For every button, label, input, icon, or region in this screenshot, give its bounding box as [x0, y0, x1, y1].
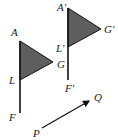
label-L-prime: L' — [55, 42, 65, 54]
label-Q: Q — [94, 91, 102, 103]
label-F: F — [8, 111, 16, 123]
original-flag-triangle — [20, 41, 53, 80]
translation-vector: P Q — [32, 91, 102, 139]
label-A-prime: A' — [56, 1, 67, 13]
label-A: A — [10, 26, 18, 38]
vector-PQ-arrow — [42, 101, 89, 128]
image-flag-triangle — [68, 8, 101, 47]
label-G: G — [57, 58, 65, 70]
translation-diagram: A G L F A' G' L' F' P Q — [0, 0, 118, 140]
label-G-prime: G' — [104, 23, 115, 35]
label-P: P — [32, 127, 40, 139]
original-flag: A G L F — [8, 26, 65, 123]
label-L: L — [8, 74, 15, 86]
image-flag: A' G' L' F' — [55, 1, 115, 94]
label-F-prime: F' — [64, 82, 75, 94]
